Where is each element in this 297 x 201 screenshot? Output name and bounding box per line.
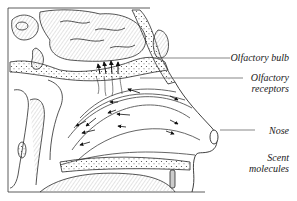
palate (40, 157, 190, 192)
label-olfactory-receptors: Olfactory receptors (251, 72, 289, 94)
label-scent-molecules-line1: Scent (249, 152, 289, 163)
nasal-anatomy-diagram: Olfactory bulb Olfactory receptors Nose … (0, 0, 297, 201)
label-olfactory-bulb: Olfactory bulb (230, 52, 289, 63)
label-scent-molecules-line2: molecules (249, 163, 289, 174)
label-nose: Nose (269, 125, 289, 136)
brain (12, 10, 146, 61)
label-olfactory-receptors-line1: Olfactory (251, 72, 289, 83)
label-scent-molecules: Scent molecules (249, 152, 289, 174)
nasal-turbinates (60, 89, 200, 165)
label-olfactory-receptors-line2: receptors (251, 83, 289, 94)
